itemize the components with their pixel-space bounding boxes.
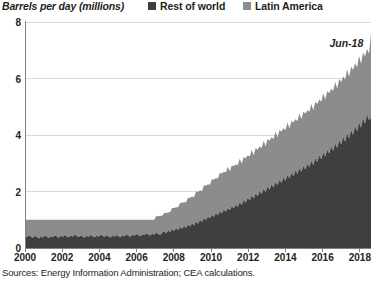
x-tick-label: 2010 (200, 252, 222, 263)
y-axis-title: Barrels per day (millions) (2, 0, 124, 12)
x-tick-label: 2008 (163, 252, 185, 263)
source-note: Sources: Energy Information Administrati… (2, 267, 255, 278)
y-tick-label: 8 (3, 17, 21, 28)
x-tick-label: 2002 (51, 252, 73, 263)
x-tick-label: 2006 (125, 252, 147, 263)
y-axis-tick-labels: 86420 (0, 15, 21, 255)
legend-item-latin-america: Latin America (243, 0, 323, 12)
x-tick-label: 2000 (14, 252, 36, 263)
x-tick-label: 2004 (88, 252, 110, 263)
legend-label-rest-of-world: Rest of world (160, 0, 225, 12)
x-tick-label: 2018 (349, 252, 371, 263)
annotation-jun-18: Jun-18 (329, 37, 363, 49)
x-tick-label: 2016 (312, 252, 334, 263)
legend-item-rest-of-world: Rest of world (148, 0, 225, 12)
x-axis-tick-labels: 2000200220042006200820102012201420162018 (0, 252, 375, 268)
legend-label-latin-america: Latin America (255, 0, 323, 12)
stacked-area-chart (0, 15, 375, 255)
x-tick-label: 2014 (274, 252, 296, 263)
chart-figure: Barrels per day (millions) Rest of world… (0, 0, 375, 282)
legend-swatch-rest-of-world (148, 2, 156, 10)
y-tick-label: 4 (3, 130, 21, 141)
x-tick-label: 2012 (237, 252, 259, 263)
y-tick-label: 6 (3, 73, 21, 84)
area-series-group (25, 33, 371, 248)
y-tick-label: 2 (3, 186, 21, 197)
legend-swatch-latin-america (243, 2, 251, 10)
chart-header: Barrels per day (millions) Rest of world… (0, 0, 375, 15)
plot-area (0, 15, 375, 255)
